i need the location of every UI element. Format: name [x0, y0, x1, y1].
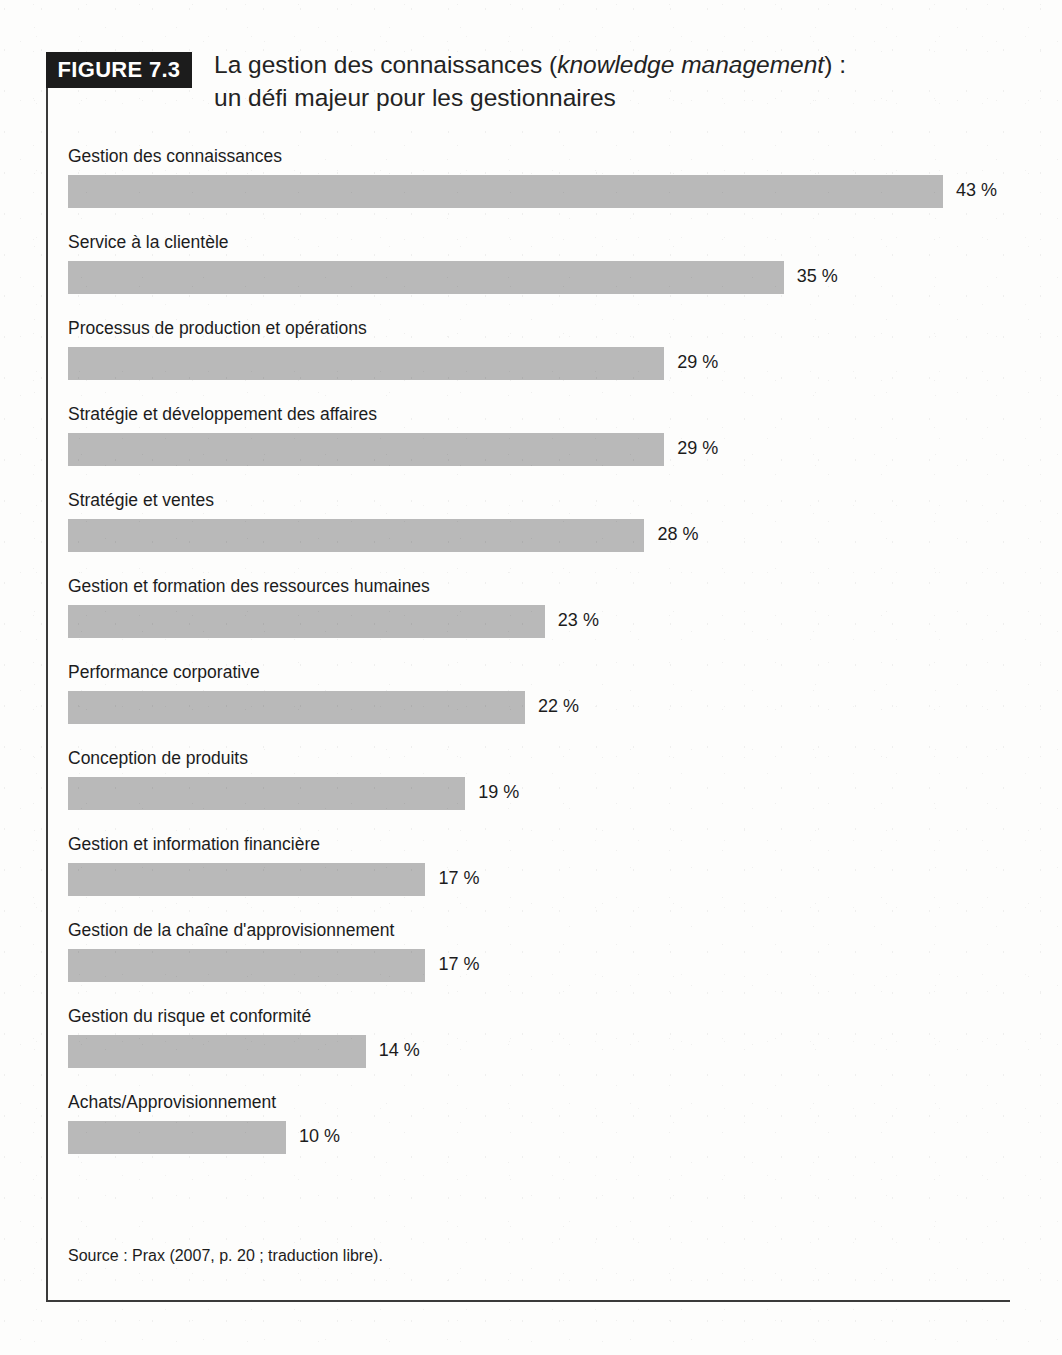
bar-value-label: 17 % — [438, 955, 479, 973]
source-note: Source : Prax (2007, p. 20 ; traduction … — [68, 1247, 383, 1265]
figure-title-line1-part2: ) : — [824, 51, 846, 78]
bar-track: 35 % — [68, 261, 998, 294]
bar-category-label: Gestion du risque et conformité — [68, 1008, 311, 1026]
bar-value-label: 10 % — [299, 1127, 340, 1145]
bar-track: 29 % — [68, 347, 998, 380]
figure-number-badge: FIGURE 7.3 — [46, 52, 192, 88]
figure-title-emphasis: knowledge management — [557, 51, 824, 78]
bar-fill — [68, 433, 664, 466]
bar-track: 10 % — [68, 1121, 998, 1154]
bar-track: 14 % — [68, 1035, 998, 1068]
bar-fill — [68, 347, 664, 380]
bar-fill — [68, 863, 425, 896]
figure-title-line2: un défi majeur pour les gestionnaires — [214, 84, 616, 111]
figure-title: La gestion des connaissances (knowledge … — [214, 49, 1004, 114]
bar-row: Achats/Approvisionnement10 % — [68, 1094, 998, 1180]
bar-track: 17 % — [68, 863, 998, 896]
bar-category-label: Performance corporative — [68, 664, 260, 682]
bar-row: Gestion des connaissances43 % — [68, 148, 998, 234]
bar-row: Stratégie et ventes28 % — [68, 492, 998, 578]
bar-row: Gestion et formation des ressources huma… — [68, 578, 998, 664]
bar-row: Performance corporative22 % — [68, 664, 998, 750]
bar-track: 22 % — [68, 691, 998, 724]
bar-row: Gestion et information financière17 % — [68, 836, 998, 922]
figure-header: FIGURE 7.3 La gestion des connaissances … — [46, 52, 1010, 137]
bar-value-label: 28 % — [657, 525, 698, 543]
horizontal-bar-chart: Gestion des connaissances43 %Service à l… — [68, 148, 998, 1180]
bar-category-label: Achats/Approvisionnement — [68, 1094, 276, 1112]
bar-value-label: 43 % — [956, 181, 997, 199]
bar-track: 17 % — [68, 949, 998, 982]
bar-category-label: Gestion et information financière — [68, 836, 320, 854]
bar-track: 28 % — [68, 519, 998, 552]
bar-track: 29 % — [68, 433, 998, 466]
bar-value-label: 22 % — [538, 697, 579, 715]
bar-category-label: Gestion et formation des ressources huma… — [68, 578, 430, 596]
bar-fill — [68, 691, 525, 724]
bar-row: Stratégie et développement des affaires2… — [68, 406, 998, 492]
bar-track: 43 % — [68, 175, 998, 208]
bar-fill — [68, 261, 784, 294]
bar-category-label: Gestion de la chaîne d'approvisionnement — [68, 922, 394, 940]
bar-value-label: 35 % — [797, 267, 838, 285]
bar-fill — [68, 949, 425, 982]
bar-track: 19 % — [68, 777, 998, 810]
bar-row: Service à la clientèle35 % — [68, 234, 998, 320]
bar-category-label: Gestion des connaissances — [68, 148, 282, 166]
bar-value-label: 29 % — [677, 353, 718, 371]
bar-category-label: Service à la clientèle — [68, 234, 229, 252]
bar-category-label: Stratégie et développement des affaires — [68, 406, 377, 424]
bar-fill — [68, 1121, 286, 1154]
bar-fill — [68, 1035, 366, 1068]
bar-row: Gestion de la chaîne d'approvisionnement… — [68, 922, 998, 1008]
bar-fill — [68, 519, 644, 552]
bar-value-label: 19 % — [478, 783, 519, 801]
bar-value-label: 14 % — [379, 1041, 420, 1059]
bar-fill — [68, 777, 465, 810]
bar-value-label: 29 % — [677, 439, 718, 457]
bar-value-label: 23 % — [558, 611, 599, 629]
bar-category-label: Conception de produits — [68, 750, 248, 768]
figure-title-line1-part1: La gestion des connaissances ( — [214, 51, 557, 78]
bar-row: Conception de produits19 % — [68, 750, 998, 836]
bar-row: Processus de production et opérations29 … — [68, 320, 998, 406]
bar-row: Gestion du risque et conformité14 % — [68, 1008, 998, 1094]
bar-category-label: Stratégie et ventes — [68, 492, 214, 510]
bar-track: 23 % — [68, 605, 998, 638]
bar-fill — [68, 175, 943, 208]
bar-value-label: 17 % — [438, 869, 479, 887]
bar-fill — [68, 605, 545, 638]
bar-category-label: Processus de production et opérations — [68, 320, 367, 338]
